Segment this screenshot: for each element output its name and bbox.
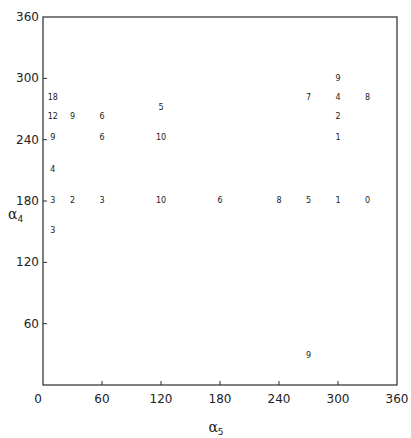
data-point-label: 9 <box>306 351 311 360</box>
y-axis-title: α4 <box>8 206 23 224</box>
data-point-label: 4 <box>50 165 55 174</box>
x-tick-label: 360 <box>386 392 409 406</box>
data-point-label: 7 <box>306 93 311 102</box>
data-point-label: 5 <box>158 103 163 112</box>
data-point-label: 5 <box>306 196 311 205</box>
data-point-label: 8 <box>365 93 370 102</box>
x-tick-label: 120 <box>150 392 173 406</box>
data-point-label: 6 <box>99 133 104 142</box>
x-tick-label: 180 <box>209 392 232 406</box>
scatter-chart: 060120180240300360 60120180240300360 181… <box>0 0 411 438</box>
data-point-label: 3 <box>50 226 55 235</box>
x-tick-label: 300 <box>327 392 350 406</box>
data-point-label: 4 <box>335 93 340 102</box>
y-axis: 60120180240300360 <box>16 10 47 331</box>
x-tick-label: 240 <box>268 392 291 406</box>
data-points: 181294339266351010687599421180 <box>48 74 370 360</box>
x-tick-label: 0 <box>34 392 42 406</box>
data-point-label: 1 <box>335 196 340 205</box>
data-point-label: 1 <box>335 133 340 142</box>
data-point-label: 8 <box>276 196 281 205</box>
data-point-label: 9 <box>335 74 340 83</box>
x-axis-title: α5 <box>208 419 223 437</box>
data-point-label: 18 <box>48 93 58 102</box>
y-tick-label: 120 <box>16 255 39 269</box>
data-point-label: 2 <box>70 196 75 205</box>
data-point-label: 6 <box>217 196 222 205</box>
y-tick-label: 180 <box>16 194 39 208</box>
data-point-label: 0 <box>365 196 370 205</box>
y-tick-label: 240 <box>16 133 39 147</box>
y-tick-label: 360 <box>16 10 39 24</box>
data-point-label: 12 <box>48 112 58 121</box>
data-point-label: 6 <box>99 112 104 121</box>
y-tick-label: 300 <box>16 71 39 85</box>
y-tick-label: 60 <box>24 317 39 331</box>
data-point-label: 3 <box>50 196 55 205</box>
x-tick-label: 60 <box>94 392 109 406</box>
data-point-label: 3 <box>99 196 104 205</box>
data-point-label: 9 <box>50 133 55 142</box>
data-point-label: 10 <box>156 133 166 142</box>
data-point-label: 2 <box>335 112 340 121</box>
data-point-label: 10 <box>156 196 166 205</box>
data-point-label: 9 <box>70 112 75 121</box>
